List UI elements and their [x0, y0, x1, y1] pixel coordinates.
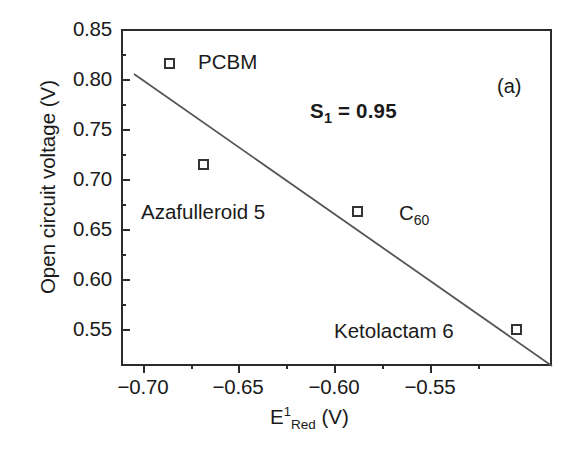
x-axis-title-units: (V) [321, 405, 348, 428]
point-label-c60-base: C [399, 201, 414, 224]
figure-panel-a: 0.85 0.80 0.75 0.70 0.65 0.60 0.55 −0.70… [0, 0, 580, 462]
x-tick-label: −0.55 [375, 377, 485, 398]
data-point-azafulleroid-5[interactable] [198, 159, 209, 170]
point-label-c60-subscript: 60 [414, 212, 430, 228]
slope-annotation: S1 = 0.95 [310, 101, 397, 122]
x-tick-label: −0.60 [279, 377, 389, 398]
x-tick-label: −0.70 [88, 377, 198, 398]
fit-line-layer [121, 29, 552, 366]
point-label-azafulleroid-5: Azafulleroid 5 [141, 202, 265, 223]
x-axis-title-superscript: 1 [284, 404, 291, 419]
data-point-c60[interactable] [352, 206, 363, 217]
x-axis-title-base: E [270, 405, 284, 428]
data-point-ketolactam-6[interactable] [511, 324, 522, 335]
x-axis-title-subscript: Red [291, 417, 316, 432]
slope-annotation-base: S [310, 99, 324, 122]
point-label-ketolactam-6: Ketolactam 6 [334, 321, 454, 342]
point-label-c60: C60 [399, 203, 429, 224]
y-axis-title: Open circuit voltage (V) [36, 37, 60, 337]
point-label-pcbm: PCBM [198, 52, 257, 73]
panel-label: (a) [497, 76, 521, 97]
slope-annotation-value: = 0.95 [332, 99, 397, 122]
slope-annotation-subscript: 1 [324, 110, 332, 126]
data-point-pcbm[interactable] [164, 58, 175, 69]
x-axis-title: E1Red (V) [270, 405, 349, 429]
x-tick-label: −0.65 [183, 377, 293, 398]
